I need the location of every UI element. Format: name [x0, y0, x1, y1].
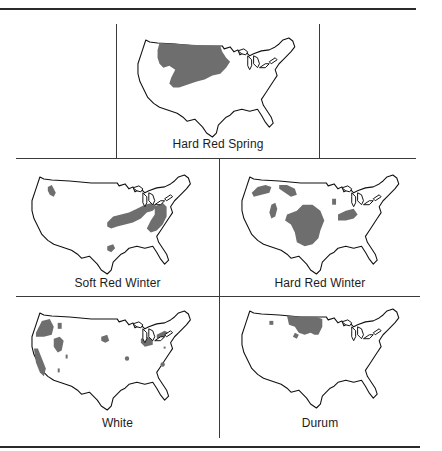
panel-caption: Soft Red Winter	[16, 276, 219, 290]
panel-caption: Hard Red Spring	[117, 137, 319, 151]
panel-caption: White	[16, 416, 219, 430]
map-panel-durum: Durum	[220, 297, 420, 438]
bottom-rule	[0, 446, 420, 448]
map-panel-soft-red-winter: Soft Red Winter	[16, 159, 219, 296]
top-rule	[0, 8, 416, 10]
panel-caption: Durum	[220, 416, 420, 430]
panel-caption: Hard Red Winter	[220, 276, 420, 290]
panel-1-right-border	[319, 24, 320, 158]
map-panel-hard-red-winter: Hard Red Winter	[220, 159, 420, 296]
map-panel-hard-red-spring: Hard Red Spring	[117, 24, 319, 158]
map-panel-white: White	[16, 297, 219, 438]
